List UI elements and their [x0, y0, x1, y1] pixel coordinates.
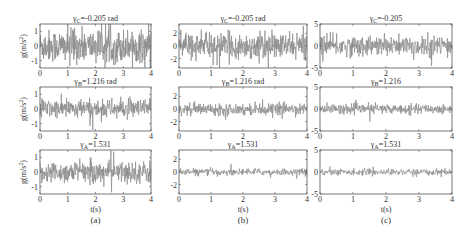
y-tick-label: 0 [314, 168, 318, 177]
y-tick-label: 0 [314, 42, 318, 51]
x-tick-label: 0 [318, 195, 322, 204]
x-tick-label: 3 [121, 132, 125, 141]
y-tick-label: -5 [311, 64, 318, 73]
subfigure-caption: (a) [91, 215, 101, 225]
x-axis-label: t(s) [90, 205, 101, 214]
y-axis-label: g(m/s2) [18, 34, 28, 58]
x-tick-label: 1 [209, 195, 213, 204]
subplot-title: γA=1.531 [370, 140, 401, 150]
x-tick-label: 1 [66, 195, 70, 204]
x-tick-label: 0 [177, 195, 181, 204]
x-tick-label: 0 [38, 132, 42, 141]
x-tick-label: 2 [94, 195, 98, 204]
y-axis-label: g(m/s2) [18, 160, 28, 184]
signal-trace [40, 24, 151, 68]
signal-trace [320, 32, 452, 66]
subplot-title: γA=1.531 [79, 140, 110, 150]
y-tick-label: 0 [34, 105, 38, 114]
subplot-title: γA=1.531 [227, 140, 258, 150]
x-tick-label: 3 [417, 69, 421, 78]
y-tick-label: 1 [34, 90, 38, 99]
x-tick-label: 4 [305, 195, 309, 204]
y-tick-label: 0 [173, 42, 177, 51]
x-tick-label: 1 [351, 195, 355, 204]
x-tick-label: 3 [273, 132, 277, 141]
x-axis-label: t(s) [238, 205, 249, 214]
x-tick-label: 0 [38, 195, 42, 204]
signal-trace [40, 150, 151, 192]
y-tick-label: 5 [314, 20, 318, 29]
x-tick-label: 4 [305, 69, 309, 78]
x-tick-label: 4 [149, 132, 153, 141]
x-tick-label: 0 [38, 69, 42, 78]
subplot-title: γC=-0.205 rad [220, 14, 266, 24]
signal-trace [320, 100, 452, 122]
y-axis-label: g(m/s2) [18, 97, 28, 121]
x-tick-label: 0 [177, 132, 181, 141]
y-tick-label: -2 [170, 118, 177, 127]
x-tick-label: 4 [450, 195, 454, 204]
x-tick-label: 2 [384, 195, 388, 204]
signal-trace [179, 26, 307, 68]
x-tick-label: 4 [450, 132, 454, 141]
y-tick-label: 5 [314, 146, 318, 155]
x-tick-label: 1 [209, 69, 213, 78]
y-tick-label: 5 [314, 83, 318, 92]
x-tick-label: 0 [318, 69, 322, 78]
x-tick-label: 0 [177, 69, 181, 78]
figure: 0123410-1γC=-0.205 radg(m/s2)0123410-1γB… [0, 0, 471, 238]
x-tick-label: 1 [351, 69, 355, 78]
subplot-title: γB=1.216 rad [73, 77, 116, 87]
subfigure-caption: (b) [238, 215, 249, 225]
y-tick-label: 2 [173, 29, 177, 38]
subplot-title: γC=-0.205 [369, 14, 403, 24]
y-tick-label: 1 [34, 27, 38, 36]
y-tick-label: -5 [311, 127, 318, 136]
y-tick-label: 2 [173, 155, 177, 164]
y-tick-label: 2 [173, 92, 177, 101]
signal-trace [320, 167, 452, 178]
y-tick-label: -1 [31, 57, 38, 66]
y-tick-label: -2 [170, 55, 177, 64]
x-tick-label: 1 [351, 132, 355, 141]
x-tick-label: 3 [417, 195, 421, 204]
y-tick-label: -2 [170, 181, 177, 190]
y-tick-label: -1 [31, 120, 38, 129]
signal-trace [179, 164, 307, 178]
x-tick-label: 4 [450, 69, 454, 78]
subplot-title: γC=-0.205 rad [72, 14, 118, 24]
signal-trace [179, 99, 307, 119]
x-tick-label: 3 [121, 195, 125, 204]
y-tick-label: 0 [34, 168, 38, 177]
x-tick-label: 0 [318, 132, 322, 141]
subplot-title: γB=1.216 [370, 77, 401, 87]
x-tick-label: 2 [241, 195, 245, 204]
subplot-title: γB=1.216 rad [221, 77, 264, 87]
x-tick-label: 1 [66, 69, 70, 78]
subfigure-caption: (c) [381, 215, 391, 225]
y-tick-label: -5 [311, 190, 318, 199]
y-tick-label: 0 [34, 42, 38, 51]
x-tick-label: 4 [149, 69, 153, 78]
signal-trace [40, 94, 151, 130]
x-tick-label: 4 [149, 195, 153, 204]
y-tick-label: 0 [173, 168, 177, 177]
y-tick-label: 0 [173, 105, 177, 114]
x-axis-label: t(s) [381, 205, 392, 214]
x-tick-label: 3 [121, 69, 125, 78]
x-tick-label: 4 [305, 132, 309, 141]
y-tick-label: 0 [314, 105, 318, 114]
x-tick-label: 1 [66, 132, 70, 141]
x-tick-label: 3 [273, 69, 277, 78]
x-tick-label: 1 [209, 132, 213, 141]
x-tick-label: 3 [417, 132, 421, 141]
y-tick-label: 1 [34, 153, 38, 162]
y-tick-label: -1 [31, 183, 38, 192]
x-tick-label: 3 [273, 195, 277, 204]
